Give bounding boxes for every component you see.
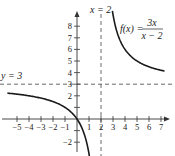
x-tick-label: 1	[87, 122, 91, 132]
y-tick-label: 4	[68, 68, 73, 78]
curve-right-branch	[112, 11, 164, 71]
function-label-numerator: 3x	[146, 17, 157, 28]
x-tick-label: 5	[135, 122, 139, 132]
x-tick-label: 2	[99, 122, 103, 132]
function-graph: x = 2y = 3−5−4−3−2−11234567−22345678 f(x…	[0, 0, 175, 156]
x-tick-label: 4	[123, 122, 128, 132]
x-tick-label: −1	[60, 122, 69, 132]
x-tick-label: −4	[24, 122, 34, 132]
y-tick-label: 5	[68, 56, 72, 66]
function-label-lhs: f(x) =	[120, 23, 143, 35]
y-tick-label: 8	[68, 21, 72, 31]
x-tick-label: 7	[159, 122, 163, 132]
y-tick-label: 7	[68, 33, 72, 43]
x-axis-arrow-icon	[164, 117, 170, 122]
y-tick-label: 3	[68, 79, 72, 89]
y-axis-arrow-icon	[75, 11, 80, 17]
x-tick-label: −2	[48, 122, 57, 132]
y-tick-label: 2	[68, 91, 72, 101]
x-tick-label: −5	[12, 122, 21, 132]
y-tick-label: −2	[63, 137, 72, 147]
x-tick-label: 6	[147, 122, 151, 132]
y-tick-label: 6	[68, 44, 72, 54]
horizontal-asymptote-label: y = 3	[0, 70, 22, 81]
x-tick-label: −3	[36, 122, 45, 132]
vertical-asymptote-label: x = 2	[89, 4, 111, 15]
x-tick-label: 3	[111, 122, 115, 132]
function-label-denominator: x − 2	[140, 30, 162, 41]
